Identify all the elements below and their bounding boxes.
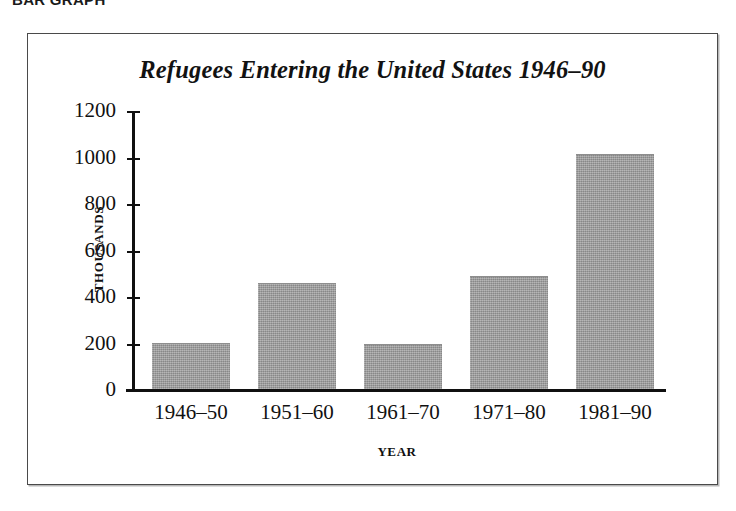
x-tick-label: 1961–70 [366,402,440,423]
y-tick: 800 [127,204,140,206]
y-tick: 1200 [127,111,140,113]
x-axis-title: YEAR [132,444,662,460]
y-tick: 1000 [127,158,140,160]
bar [364,344,443,389]
x-tick-label: 1951–60 [260,402,334,423]
bar [258,283,337,389]
y-tick-label: 1200 [74,100,116,121]
y-tick: 400 [127,297,140,299]
y-tick: 600 [127,251,140,253]
chart-title: Refugees Entering the United States 1946… [28,56,717,84]
y-tick-label: 0 [106,379,117,400]
bar [152,343,231,390]
plot-area: THOUSANDS 020040060080010001200 1946–501… [132,106,662,391]
y-tick: 0 [127,390,140,392]
y-tick-label: 800 [85,193,117,214]
x-tick-label: 1981–90 [578,402,652,423]
x-axis-line [126,389,666,392]
bar [470,276,549,389]
y-tick-label: 200 [85,333,117,354]
y-tick-label: 600 [85,240,117,261]
y-tick-label: 1000 [74,147,116,168]
y-tick: 200 [127,344,140,346]
x-tick-label: 1971–80 [472,402,546,423]
page-caption-strip: BAR GRAPH [0,0,736,14]
figure-frame: Refugees Entering the United States 1946… [27,33,718,485]
bar [576,154,655,389]
caption-label: BAR GRAPH [12,0,106,8]
x-tick-label: 1946–50 [154,402,228,423]
y-tick-label: 400 [85,286,117,307]
